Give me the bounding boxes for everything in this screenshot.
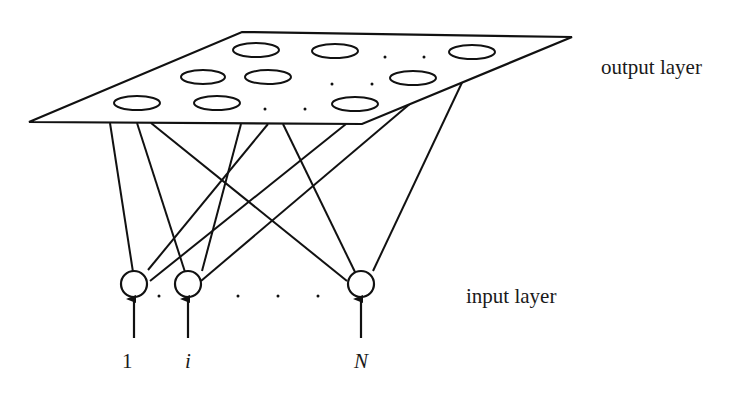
output-layer-label: output layer bbox=[601, 55, 702, 80]
input-layer-label: input layer bbox=[466, 284, 556, 309]
input-node-n bbox=[348, 271, 374, 297]
connection-line bbox=[110, 123, 133, 272]
input-node-1 bbox=[121, 271, 147, 297]
input-index-n: N bbox=[354, 349, 368, 374]
input-index-i: i bbox=[185, 349, 191, 374]
input-node-i bbox=[175, 271, 201, 297]
input-arrows bbox=[134, 299, 361, 338]
input-index-1: 1 bbox=[122, 349, 133, 374]
output-layer-plane bbox=[29, 32, 572, 124]
